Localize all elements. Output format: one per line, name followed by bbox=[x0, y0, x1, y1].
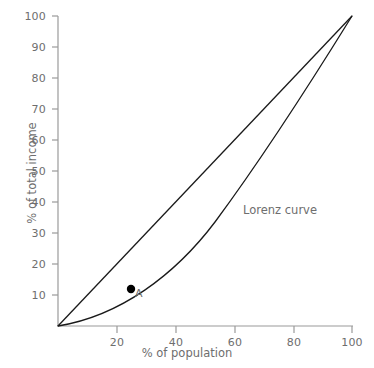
x-axis-title: % of population bbox=[0, 346, 374, 360]
x-axis-ticks bbox=[117, 326, 352, 333]
y-axis-title: % of total income bbox=[25, 83, 39, 263]
y-tick-label-10: 10 bbox=[16, 289, 46, 302]
point-a-label: A bbox=[135, 287, 143, 300]
line-of-equality bbox=[58, 16, 352, 326]
lorenz-curve-chart: 100 90 80 70 60 50 40 30 20 10 20 40 60 … bbox=[0, 0, 374, 368]
y-axis-ticks bbox=[52, 16, 58, 295]
point-a-marker bbox=[127, 285, 135, 293]
y-tick-label-100: 100 bbox=[16, 10, 46, 23]
lorenz-curve-label: Lorenz curve bbox=[243, 203, 317, 217]
y-tick-label-90: 90 bbox=[16, 41, 46, 54]
chart-plot-area bbox=[0, 0, 374, 368]
